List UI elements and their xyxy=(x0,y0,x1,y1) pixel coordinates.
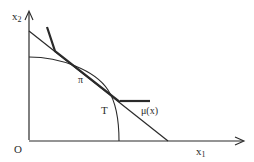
tangent-point-label: π xyxy=(78,74,83,85)
mu-curve-label: μ(x) xyxy=(141,105,158,117)
frontier-label: T xyxy=(101,104,108,116)
x-axis-label: x1 xyxy=(196,145,206,159)
diagram-canvas: x2 x1 O π T μ(x) xyxy=(0,0,254,162)
origin-label: O xyxy=(14,143,22,155)
y-axis-label: x2 xyxy=(12,10,22,24)
frontier-curve-T xyxy=(29,57,119,141)
